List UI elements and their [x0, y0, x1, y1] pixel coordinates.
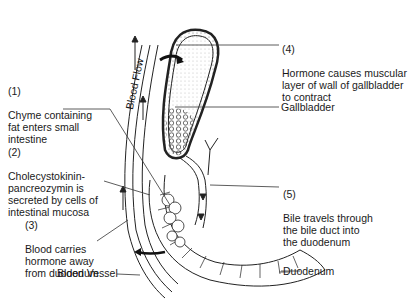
gallbladder-label: Gallbladder	[281, 101, 335, 113]
blood-vessel-label: Blood Vessel	[57, 267, 118, 279]
gallbladder	[160, 30, 218, 159]
step1-number: (1)	[8, 85, 21, 97]
step5-text: Bile travels through the bile duct into …	[283, 212, 373, 248]
step4-label: (4) Hormone causes muscular layer of wal…	[282, 31, 407, 103]
step2-number: (2)	[8, 146, 21, 158]
step5-number: (5)	[283, 188, 296, 200]
step5-label: (5) Bile travels through the bile duct i…	[283, 176, 373, 248]
step3-number: (3)	[25, 219, 38, 231]
duodenum-label: Duodenum	[283, 265, 334, 277]
step4-number: (4)	[282, 43, 295, 55]
step4-text: Hormone causes muscular layer of wall of…	[282, 67, 407, 103]
intestinal-mucosa	[162, 194, 185, 247]
step2-label: (2) Cholecystokinin- pancreozymin is sec…	[8, 134, 98, 218]
